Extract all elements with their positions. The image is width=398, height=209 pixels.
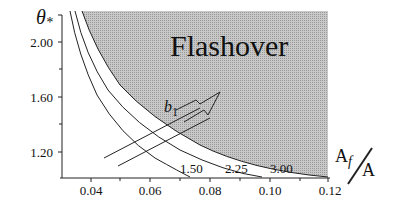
x-axis-label-numerator: Af xyxy=(335,146,354,169)
region-label-flashover: Flashover xyxy=(170,29,288,62)
chart-canvas: 2.00 1.60 1.20 0.04 0.06 0.08 0.10 0.12 … xyxy=(0,0,398,209)
x-tick-label: 0.12 xyxy=(319,183,342,198)
curve-label-3-00: 3.00 xyxy=(270,161,293,176)
x-tick-label: 0.06 xyxy=(139,183,162,198)
y-tick-label: 1.20 xyxy=(30,145,53,160)
y-tick-label: 1.60 xyxy=(30,90,53,105)
curve-label-2-25: 2.25 xyxy=(225,161,248,176)
y-tick-label: 2.00 xyxy=(30,35,53,50)
x-axis-label-denominator: A xyxy=(362,160,375,180)
x-tick-label: 0.04 xyxy=(80,183,103,198)
x-tick-label: 0.10 xyxy=(259,183,282,198)
y-axis-label: θ* xyxy=(36,6,53,30)
x-tick-label: 0.08 xyxy=(199,183,222,198)
curve-label-1-50: 1.50 xyxy=(180,161,203,176)
